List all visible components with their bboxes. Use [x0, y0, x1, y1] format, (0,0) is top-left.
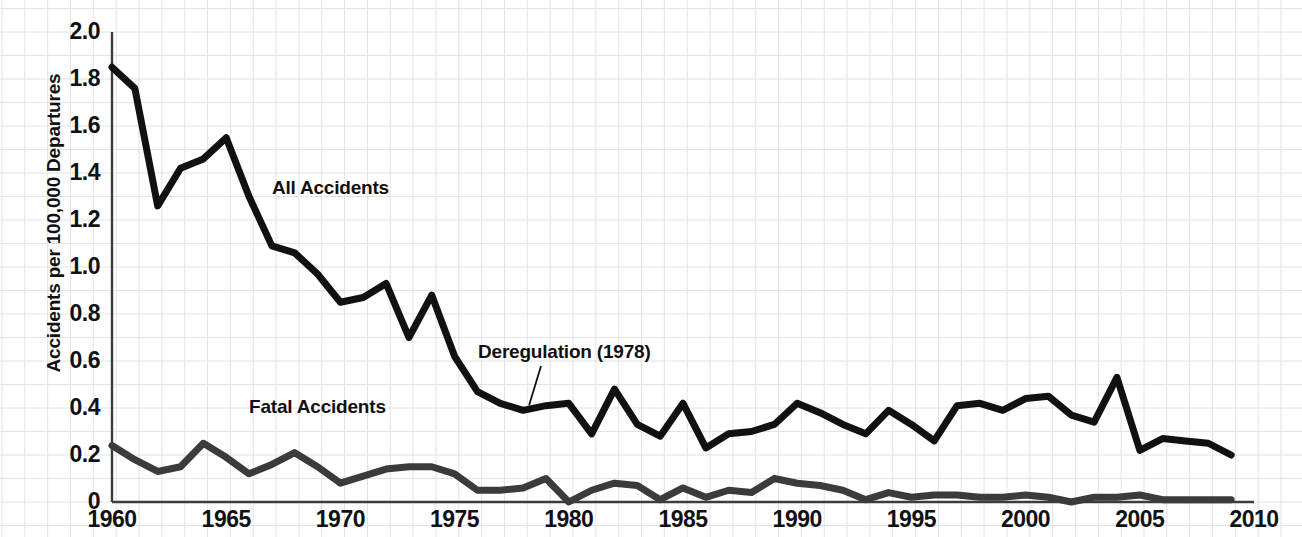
series-label-fatal-accidents: Fatal Accidents	[249, 396, 386, 418]
annotation-deregulation: Deregulation (1978)	[478, 341, 651, 363]
chart-figure: Accidents per 100,000 Departures 2.01.81…	[0, 0, 1302, 537]
source-note-container: SOURCE: National Transportation Safety B…	[1250, 0, 1302, 537]
x-tick-1995: 1995	[866, 506, 956, 533]
y-tick-1-6: 1.6	[40, 112, 100, 139]
series-label-all-accidents: All Accidents	[272, 177, 389, 199]
x-tick-1960: 1960	[67, 506, 157, 533]
x-tick-1975: 1975	[410, 506, 500, 533]
y-tick-1-4: 1.4	[40, 159, 100, 186]
annotation-leader-line	[529, 366, 541, 405]
y-tick-1-0: 1.0	[40, 253, 100, 280]
x-tick-1990: 1990	[752, 506, 842, 533]
y-tick-0-8: 0.8	[40, 300, 100, 327]
y-tick-0-2: 0.2	[40, 441, 100, 468]
x-tick-1970: 1970	[295, 506, 385, 533]
y-tick-2-0: 2.0	[40, 18, 100, 45]
y-tick-1-8: 1.8	[40, 65, 100, 92]
x-tick-2000: 2000	[981, 506, 1071, 533]
x-tick-2005: 2005	[1095, 506, 1185, 533]
series-line-fatal-accidents	[112, 443, 1231, 502]
y-tick-1-2: 1.2	[40, 206, 100, 233]
x-tick-1965: 1965	[181, 506, 271, 533]
y-tick-0-6: 0.6	[40, 347, 100, 374]
series-layer	[112, 67, 1231, 502]
x-tick-1980: 1980	[524, 506, 614, 533]
x-tick-1985: 1985	[638, 506, 728, 533]
y-tick-0-4: 0.4	[40, 394, 100, 421]
line-chart-svg	[0, 0, 1302, 537]
